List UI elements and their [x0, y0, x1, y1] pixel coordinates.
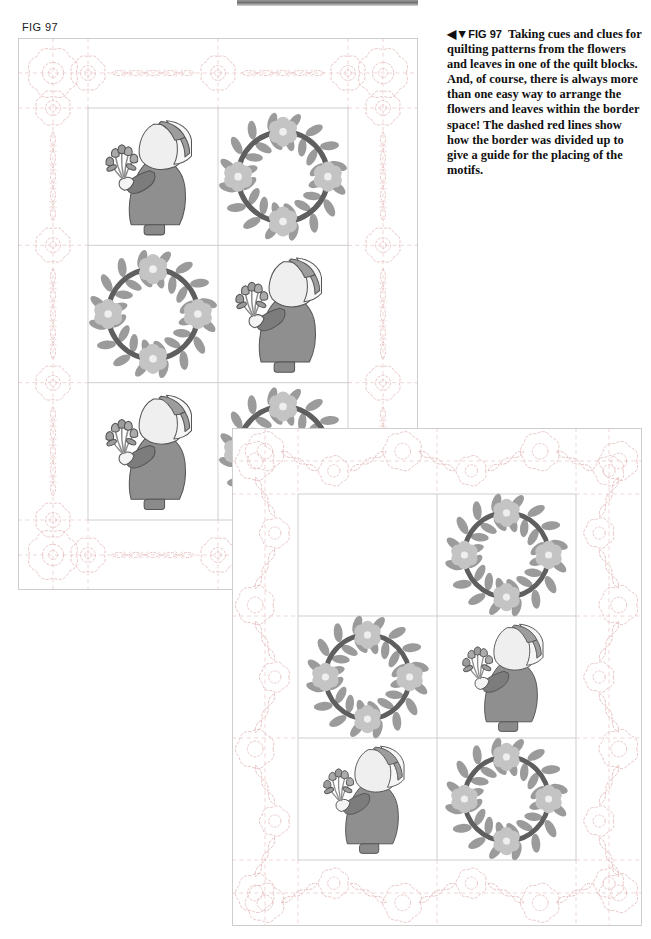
- caption-fig-ref: FIG 97: [468, 28, 502, 40]
- figure-caption: ◀▼FIG 97 Taking cues and clues for quilt…: [447, 27, 643, 178]
- caption-arrow-icon: ◀▼: [447, 27, 468, 41]
- page-title: FIG 97: [22, 21, 58, 33]
- caption-text: Taking cues and clues for quilting patte…: [447, 27, 641, 177]
- quilt-bottom-right: [232, 428, 642, 926]
- page-edge-artifact: [237, 0, 418, 6]
- figure-page: FIG 97 ◀▼FIG 97 Taking cues and clues fo…: [0, 0, 651, 939]
